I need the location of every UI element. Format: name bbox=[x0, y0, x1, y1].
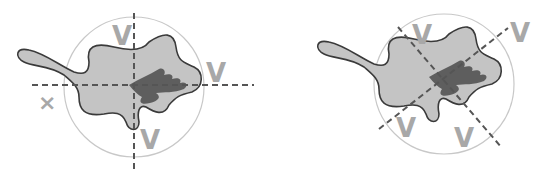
check-mark-right: V bbox=[206, 58, 226, 88]
right-panel: V V V V bbox=[318, 14, 530, 154]
check-mark-bottom-right: V bbox=[454, 123, 474, 153]
check-mark-bottom-left: V bbox=[396, 113, 416, 143]
check-mark-top-left: V bbox=[412, 20, 432, 50]
check-mark-bottom: V bbox=[140, 125, 160, 155]
left-panel: V V V × bbox=[18, 13, 254, 172]
symmetry-diagram: V V V × V V V V bbox=[0, 0, 543, 175]
check-mark-top-right: V bbox=[510, 18, 530, 48]
check-mark-top: V bbox=[112, 21, 132, 51]
cross-mark-left: × bbox=[38, 90, 56, 115]
